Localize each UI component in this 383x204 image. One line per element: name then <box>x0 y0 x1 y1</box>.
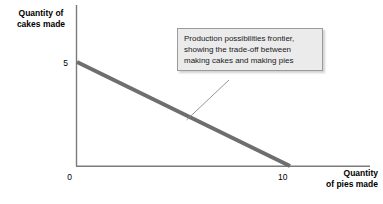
annotation-callout-text: Production possibilities frontier, showi… <box>184 33 317 66</box>
production-possibilities-frontier-line <box>77 62 290 166</box>
callout-leader-line <box>187 80 230 120</box>
y-axis-title: Quantity of cakes made <box>9 8 73 29</box>
x-axis-title: Quantity of pies made <box>300 168 378 189</box>
x-axis-tick-label-0: 0 <box>56 172 72 182</box>
y-axis-tick-label-5: 5 <box>52 58 68 68</box>
x-axis-tick-label-10: 10 <box>278 172 296 182</box>
annotation-callout-box: Production possibilities frontier, showi… <box>177 28 323 71</box>
ppf-chart-figure: Quantity of cakes made Quantity of pies … <box>0 0 383 204</box>
